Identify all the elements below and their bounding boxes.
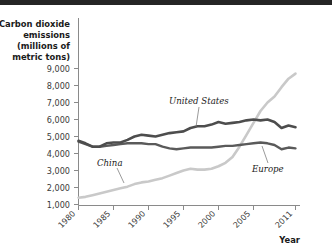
y-tick-label-9000: 9,000 <box>47 64 70 74</box>
leader-line-united-states <box>196 107 199 127</box>
chart-page: Carbon dioxide emissions (millions of me… <box>0 0 332 248</box>
series-line-china <box>79 74 296 198</box>
y-axis-title-line-2: emissions <box>23 30 70 40</box>
x-axis-ticks <box>79 206 296 211</box>
leader-line-europe <box>262 146 268 163</box>
y-tick-label-5000: 5,000 <box>47 132 70 142</box>
series-lines <box>79 74 296 198</box>
x-tick-label-1980: 1980 <box>56 208 78 230</box>
x-tick-label-1990: 1990 <box>126 208 148 230</box>
x-axis-tick-labels: 1980 1985 1990 1995 2000 2005 2011 <box>56 208 295 230</box>
y-axis-title-line-1: Carbon dioxide <box>0 19 70 29</box>
y-tick-label-4000: 4,000 <box>47 149 70 159</box>
co2-emissions-line-chart: Carbon dioxide emissions (millions of me… <box>0 5 332 248</box>
chart-svg: Carbon dioxide emissions (millions of me… <box>0 5 332 248</box>
leader-line-china <box>117 168 124 183</box>
series-label-europe: Europe <box>251 164 284 174</box>
series-label-china: China <box>97 158 123 168</box>
x-tick-label-2000: 2000 <box>196 208 218 230</box>
x-tick-label-1995: 1995 <box>161 208 183 230</box>
y-tick-label-1000: 1,000 <box>47 200 70 210</box>
x-tick-label-1985: 1985 <box>91 208 113 230</box>
y-tick-label-8000: 8,000 <box>47 81 70 91</box>
x-tick-label-2005: 2005 <box>231 208 253 230</box>
y-axis-title: Carbon dioxide emissions (millions of me… <box>0 19 70 62</box>
series-labels: United States China Europe <box>97 96 284 174</box>
y-tick-label-2000: 2,000 <box>47 183 70 193</box>
y-tick-label-7000: 7,000 <box>47 98 70 108</box>
x-tick-label-2011: 2011 <box>273 208 295 230</box>
y-axis-tick-labels: 9,000 8,000 7,000 6,000 5,000 4,000 3,00… <box>47 64 70 210</box>
x-axis-title: Year <box>278 235 301 245</box>
y-tick-label-6000: 6,000 <box>47 115 70 125</box>
y-axis-title-line-3: (millions of <box>17 41 70 51</box>
series-label-united-states: United States <box>169 96 229 106</box>
y-axis-ticks <box>74 69 79 205</box>
y-tick-label-3000: 3,000 <box>47 166 70 176</box>
y-axis-title-line-4: metric tons) <box>12 52 70 62</box>
